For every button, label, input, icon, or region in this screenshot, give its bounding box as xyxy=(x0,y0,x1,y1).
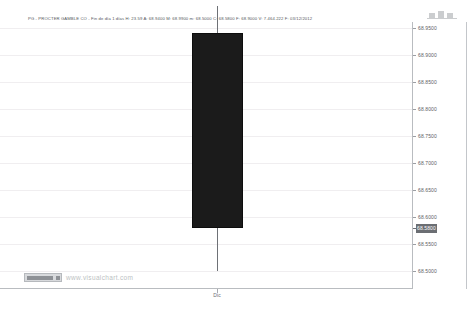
gridline xyxy=(0,28,412,29)
tick-label: 68.6000 xyxy=(418,213,437,222)
tick-mark xyxy=(413,28,416,29)
chart-header-info: PG - PROCTER GAMBLE CO - Fin de día 1 dí… xyxy=(28,15,312,22)
time-axis-label: Dic xyxy=(213,292,221,298)
tick-mark xyxy=(413,190,416,191)
price-tick: 68.5500 xyxy=(413,240,466,249)
tick-label: 68.8000 xyxy=(418,105,437,114)
price-axis[interactable]: 68.950068.900068.850068.800068.750068.70… xyxy=(412,22,467,289)
tick-mark xyxy=(413,217,416,218)
visualchart-logo-icon xyxy=(24,273,62,282)
tick-mark xyxy=(413,136,416,137)
price-tick: 68.8500 xyxy=(413,78,466,87)
tick-label: 68.9500 xyxy=(418,24,437,33)
tick-label: 68.7000 xyxy=(418,159,437,168)
price-tick: 68.9000 xyxy=(413,51,466,60)
price-tick: 68.6000 xyxy=(413,213,466,222)
chart-window: PG - PROCTER GAMBLE CO - Fin de día 1 dí… xyxy=(0,0,467,312)
tick-label: 68.5500 xyxy=(418,240,437,249)
price-tick: 68.6500 xyxy=(413,186,466,195)
tick-mark xyxy=(413,163,416,164)
candle-body[interactable] xyxy=(192,33,243,227)
price-tick: 68.8000 xyxy=(413,105,466,114)
tick-label: 68.7500 xyxy=(418,132,437,141)
control-underline xyxy=(427,18,457,19)
chart-plot-area[interactable] xyxy=(0,22,412,288)
watermark: www.visualchart.com xyxy=(24,273,133,282)
tick-mark xyxy=(413,109,416,110)
tick-mark xyxy=(413,271,416,272)
tick-label: 68.8500 xyxy=(418,78,437,87)
window-controls-icon[interactable] xyxy=(427,11,461,20)
current-price-label: 68.5800 xyxy=(416,224,437,233)
tick-mark xyxy=(413,55,416,56)
gridline xyxy=(0,271,412,272)
price-tick: 68.7000 xyxy=(413,159,466,168)
tick-mark xyxy=(413,82,416,83)
tick-label: 68.5000 xyxy=(418,267,437,276)
time-axis[interactable]: Dic xyxy=(0,289,412,309)
price-tick: 68.7500 xyxy=(413,132,466,141)
gridline xyxy=(0,244,412,245)
price-tick: 68.9500 xyxy=(413,24,466,33)
tick-mark xyxy=(413,244,416,245)
watermark-url: www.visualchart.com xyxy=(66,274,133,281)
price-tick: 68.5000 xyxy=(413,267,466,276)
tick-label: 68.9000 xyxy=(418,51,437,60)
tick-label: 68.6500 xyxy=(418,186,437,195)
current-price-badge[interactable]: 68.5800 xyxy=(413,224,466,233)
